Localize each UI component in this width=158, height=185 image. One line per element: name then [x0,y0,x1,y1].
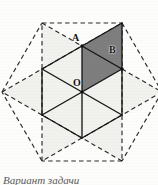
caption-text: Bариант задачи [3,176,79,185]
caption-strip: Bариант задачи [0,176,158,185]
geometry-canvas [0,0,158,185]
light-region-star-point-left [2,69,42,115]
vertex-dot-A [80,44,83,47]
vertex-dot-O [81,91,84,94]
vertex-label-o: O [73,78,81,88]
vertex-dot-B [120,67,123,70]
vertex-label-b: B [109,45,116,55]
geometry-figure: A B O Bариант задачи [0,0,158,185]
vertex-label-a: A [72,33,79,43]
